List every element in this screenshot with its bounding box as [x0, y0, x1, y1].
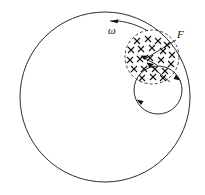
cross-mark — [131, 66, 137, 72]
cross-mark — [168, 61, 174, 67]
small-circle — [134, 66, 182, 114]
large-circle — [20, 12, 190, 182]
cross-mark — [128, 47, 134, 53]
cross-mark — [138, 46, 144, 52]
cross-mark — [134, 38, 140, 44]
cross-mark — [169, 52, 175, 58]
omega-arrowhead — [111, 19, 119, 23]
cross-mark — [162, 68, 168, 74]
cross-mark — [145, 36, 151, 42]
cross-marks-group — [127, 36, 175, 81]
cross-mark — [149, 45, 155, 51]
cross-mark — [150, 74, 156, 80]
cross-mark — [139, 75, 145, 81]
force-label: F — [176, 28, 184, 40]
diagram-canvas: ω — [0, 0, 205, 195]
cross-mark — [158, 57, 164, 63]
omega-label: ω — [108, 24, 116, 36]
figure-container: ω — [0, 0, 205, 195]
cross-mark — [127, 57, 133, 63]
cross-mark — [155, 38, 161, 44]
